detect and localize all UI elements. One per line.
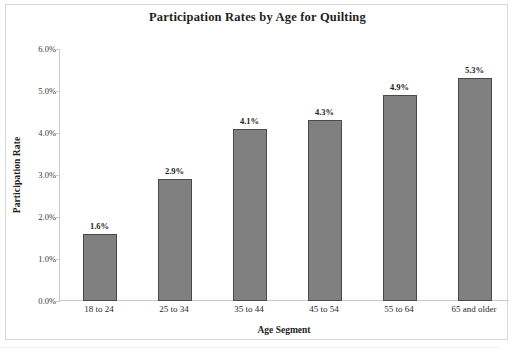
y-tick-mark xyxy=(55,301,60,302)
y-tick-label: 5.0% xyxy=(6,86,56,96)
x-tick-label: 65 and older xyxy=(431,304,517,314)
plot-area: 1.6%2.9%4.1%4.3%4.9%5.3% xyxy=(60,49,508,301)
y-tick-label: 2.0% xyxy=(6,212,56,222)
y-tick-label: 3.0% xyxy=(6,170,56,180)
bar[interactable] xyxy=(158,179,192,301)
y-tick-label: 1.0% xyxy=(6,254,56,264)
bar-value-label: 4.1% xyxy=(212,116,287,126)
x-tick-label: 45 to 54 xyxy=(281,304,367,314)
bar[interactable] xyxy=(383,95,417,301)
chart-frame: Participation Rates by Age for Quilting … xyxy=(5,4,508,340)
y-tick-label: 0.0% xyxy=(6,296,56,306)
bar-group: 4.3% xyxy=(287,49,362,301)
x-tick-label: 18 to 24 xyxy=(56,304,142,314)
bar-value-label: 4.3% xyxy=(287,107,362,117)
bar-value-label: 2.9% xyxy=(137,166,212,176)
bar[interactable] xyxy=(458,78,492,301)
bar[interactable] xyxy=(83,234,117,301)
x-tick-label: 55 to 64 xyxy=(356,304,442,314)
y-tick-label: 4.0% xyxy=(6,128,56,138)
bar-value-label: 1.6% xyxy=(62,221,137,231)
bar[interactable] xyxy=(308,120,342,301)
bar-group: 4.9% xyxy=(362,49,437,301)
x-axis-title: Age Segment xyxy=(59,325,509,335)
bar-value-label: 5.3% xyxy=(437,65,512,75)
x-tick-label: 25 to 34 xyxy=(131,304,217,314)
chart-title: Participation Rates by Age for Quilting xyxy=(6,10,509,25)
x-tick-label: 35 to 44 xyxy=(206,304,292,314)
bar-group: 4.1% xyxy=(212,49,287,301)
bar-group: 2.9% xyxy=(137,49,212,301)
bar[interactable] xyxy=(233,129,267,301)
bar-group: 5.3% xyxy=(437,49,512,301)
y-tick-label: 6.0% xyxy=(6,44,56,54)
bar-group: 1.6% xyxy=(62,49,137,301)
bar-value-label: 4.9% xyxy=(362,82,437,92)
scan-artifact xyxy=(0,347,500,348)
